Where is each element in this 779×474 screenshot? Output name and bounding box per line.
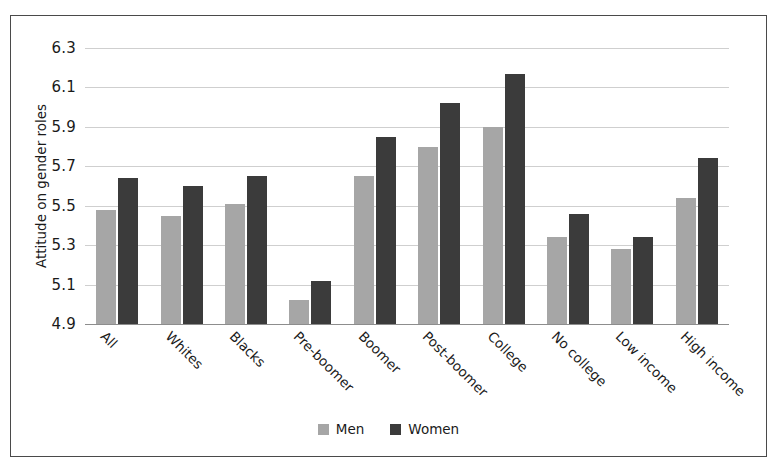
bar-women: [311, 281, 331, 324]
x-axis-tick-label: High income: [677, 328, 748, 399]
y-axis-tick-label: 5.9: [52, 117, 76, 135]
x-axis-labels: AllWhitesBlacksPre-boomerBoomerPost-boom…: [85, 328, 729, 408]
bar-group: [665, 48, 729, 324]
y-axis-tick-label: 6.3: [52, 39, 76, 57]
plot-area: 4.95.15.35.55.75.96.16.3: [85, 48, 729, 324]
gridline: [85, 324, 729, 325]
bar-women: [183, 186, 203, 324]
bar-men: [676, 198, 696, 324]
bar-women: [118, 178, 138, 324]
y-axis-title: Attitude on gender roles: [31, 48, 51, 324]
x-axis-tick-label: Post-boomer: [420, 328, 492, 400]
legend-item[interactable]: Women: [390, 421, 459, 437]
bar-group: [471, 48, 535, 324]
bar-men: [225, 204, 245, 324]
x-axis-tick-label: Low income: [613, 328, 681, 396]
bar-men: [289, 300, 309, 324]
bar-group: [149, 48, 213, 324]
legend-item[interactable]: Men: [318, 421, 365, 437]
bar-men: [547, 237, 567, 324]
x-axis-tick-label: All: [98, 328, 121, 351]
x-axis-tick-label: College: [484, 328, 531, 375]
bar-group: [536, 48, 600, 324]
bar-men: [96, 210, 116, 324]
bar-men: [611, 249, 631, 324]
bar-women: [569, 214, 589, 324]
bar-women: [440, 103, 460, 324]
bar-men: [161, 216, 181, 324]
legend-item-label: Women: [408, 421, 459, 437]
bar-women: [698, 158, 718, 324]
y-axis-tick-label: 6.1: [52, 78, 76, 96]
men-swatch: [318, 424, 329, 435]
bar-women: [247, 176, 267, 324]
x-axis-tick-label: Pre-boomer: [291, 328, 358, 395]
bar-group: [343, 48, 407, 324]
y-axis-tick-label: 5.1: [52, 275, 76, 293]
bar-series-container: [85, 48, 729, 324]
bar-group: [214, 48, 278, 324]
x-axis-tick-label: Boomer: [355, 328, 404, 377]
bar-group: [407, 48, 471, 324]
bar-group: [600, 48, 664, 324]
y-axis-tick-label: 5.5: [52, 196, 76, 214]
legend-item-label: Men: [336, 421, 365, 437]
y-axis-tick-label: 5.7: [52, 157, 76, 175]
x-axis-tick-label: Whites: [162, 328, 206, 372]
bar-women: [633, 237, 653, 324]
bar-men: [418, 147, 438, 324]
chart-figure: Attitude on gender roles 4.95.15.35.55.7…: [10, 15, 767, 457]
chart-legend: MenWomen: [11, 421, 766, 437]
bar-men: [483, 127, 503, 324]
bar-women: [505, 74, 525, 324]
bar-group: [278, 48, 342, 324]
x-axis-tick-label: No college: [549, 328, 611, 390]
bar-men: [354, 176, 374, 324]
bar-women: [376, 137, 396, 324]
y-axis-tick-label: 4.9: [52, 315, 76, 333]
y-axis-title-label: Attitude on gender roles: [33, 104, 49, 268]
x-axis-tick-label: Blacks: [227, 328, 269, 370]
y-axis-tick-label: 5.3: [52, 236, 76, 254]
bar-group: [85, 48, 149, 324]
women-swatch: [390, 424, 401, 435]
